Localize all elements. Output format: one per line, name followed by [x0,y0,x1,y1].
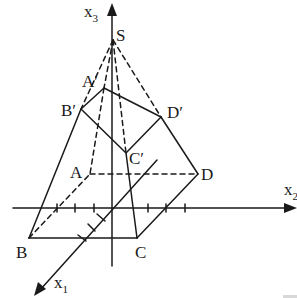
x1-arrow-icon [34,282,46,296]
diagram-svg [0,0,297,298]
point-label-A-prime: A′ [82,73,98,90]
point-label-D: D [201,166,213,183]
edge-DprimeD [161,117,198,174]
x3-arrow-icon [107,3,117,16]
x3-axis-label: x3 [84,3,98,20]
point-label-B: B [16,244,27,261]
x2-axis-label: x2 [284,181,297,198]
point-label-C: C [135,244,146,261]
point-label-C-prime: C′ [129,150,144,167]
x1-axis-line [40,160,157,290]
point-label-A: A [70,164,82,181]
point-label-B-prime: B′ [61,102,76,119]
point-label-D-prime: D′ [167,104,183,121]
point-label-S: S [116,27,125,44]
diagram-canvas: x3 x2 x1 S A′ B′ D′ C′ A D B C [0,0,297,298]
edge-BA-hidden [29,174,90,238]
edge-CD [137,174,198,238]
x1-axis-label: x1 [54,274,68,291]
x2-arrow-icon [284,203,297,213]
edge-AprimeA-hidden [90,88,104,174]
x1-axis-ticks [78,214,105,241]
